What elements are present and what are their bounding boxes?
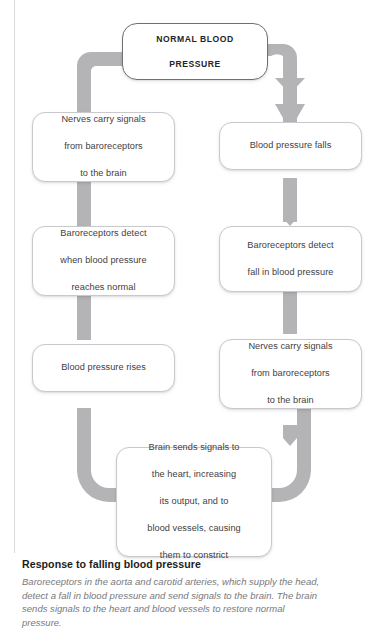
node-label: Blood pressure rises xyxy=(55,361,152,375)
node-blood-pressure-rises[interactable]: Blood pressure rises xyxy=(32,344,175,392)
node-brain-sends-signals[interactable]: Brain sends signals tothe heart, increas… xyxy=(116,447,272,557)
node-line-1: Baroreceptors detect xyxy=(54,227,152,241)
arrowhead-nervesright-brain xyxy=(283,425,297,446)
node-normal-blood-pressure[interactable]: NORMAL BLOODPRESSURE xyxy=(122,23,268,80)
node-label: Nerves carry signalsfrom baroreceptorsto… xyxy=(49,113,157,181)
node-line-3: to the brain xyxy=(55,167,151,181)
node-baroreceptors-detect-normal[interactable]: Baroreceptors detectwhen blood pressurer… xyxy=(32,226,175,296)
node-baroreceptors-detect-fall[interactable]: Baroreceptors detectfall in blood pressu… xyxy=(219,226,362,292)
node-label: Baroreceptors detectfall in blood pressu… xyxy=(235,239,345,280)
node-line-3: reaches normal xyxy=(54,281,152,295)
node-line-2: PRESSURE xyxy=(150,58,240,71)
node-line-2: fall in blood pressure xyxy=(241,266,339,280)
figure-caption: Response to falling blood pressure Baror… xyxy=(22,558,322,629)
node-line-5: them to constrict xyxy=(141,549,247,563)
arrow-nervesright-to-brain xyxy=(272,408,311,502)
caption-body: Baroreceptors in the aorta and carotid a… xyxy=(22,575,322,629)
node-label: Nerves carry signalsfrom baroreceptorsto… xyxy=(236,340,344,408)
node-line-1: Brain sends signals to xyxy=(141,441,247,455)
node-line-1: Nerves carry signals xyxy=(242,340,338,354)
node-line-1: NORMAL BLOOD xyxy=(150,33,240,46)
node-blood-pressure-falls[interactable]: Blood pressure falls xyxy=(219,122,362,170)
node-line-2: when blood pressure xyxy=(54,254,152,268)
node-line-3: its output, and to xyxy=(141,495,247,509)
node-line-2: from baroreceptors xyxy=(242,367,338,381)
node-nerves-carry-signals-right[interactable]: Nerves carry signalsfrom baroreceptorsto… xyxy=(219,339,362,409)
node-line-1: Nerves carry signals xyxy=(55,113,151,127)
node-nerves-carry-signals-left[interactable]: Nerves carry signalsfrom baroreceptorsto… xyxy=(32,112,175,182)
node-label: Blood pressure falls xyxy=(244,139,338,153)
arrowhead2-falls-barofall xyxy=(283,208,297,226)
node-line-3: to the brain xyxy=(242,394,338,408)
node-line-4: blood vessels, causing xyxy=(141,522,247,536)
node-label: Brain sends signals tothe heart, increas… xyxy=(135,441,253,563)
node-label: NORMAL BLOODPRESSURE xyxy=(144,33,246,71)
node-label: Baroreceptors detectwhen blood pressurer… xyxy=(48,227,158,295)
node-line-1: Baroreceptors detect xyxy=(241,239,339,253)
node-line-2: from baroreceptors xyxy=(55,140,151,154)
diagram-page: NORMAL BLOODPRESSURE Blood pressure fall… xyxy=(0,0,389,630)
node-line-2: the heart, increasing xyxy=(141,468,247,482)
flowchart-canvas: NORMAL BLOODPRESSURE Blood pressure fall… xyxy=(0,0,389,560)
